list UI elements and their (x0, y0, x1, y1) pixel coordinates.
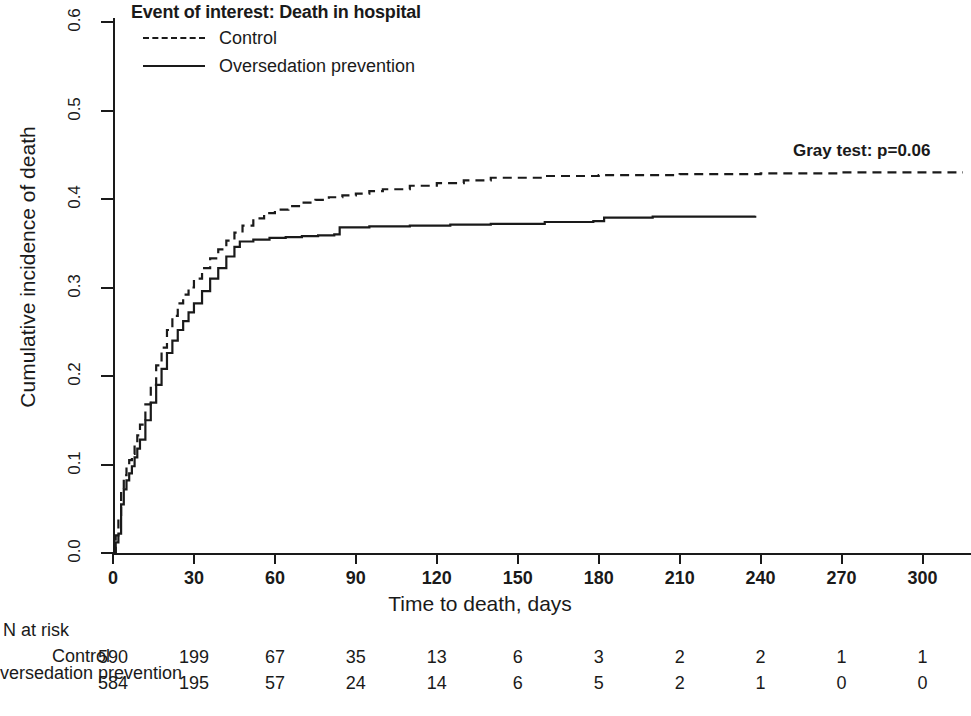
risk-cell: 195 (164, 673, 224, 694)
y-tick-label: 0.3 (65, 269, 85, 303)
x-tick-label: 240 (731, 568, 791, 589)
risk-cell: 199 (164, 647, 224, 668)
x-tick (922, 553, 924, 564)
x-tick-label: 30 (164, 568, 224, 589)
y-tick (101, 21, 113, 23)
solid-line-icon (143, 59, 205, 73)
x-tick (112, 553, 114, 564)
risk-cell: 0 (893, 673, 953, 694)
risk-cell: 590 (83, 647, 143, 668)
risk-cell: 13 (407, 647, 467, 668)
x-tick (760, 553, 762, 564)
x-tick (679, 553, 681, 564)
dashed-line-icon (143, 31, 205, 45)
x-tick-label: 210 (650, 568, 710, 589)
y-tick-label: 0.0 (65, 534, 85, 568)
x-tick-label: 270 (812, 568, 872, 589)
x-tick (274, 553, 276, 564)
risk-cell: 6 (488, 647, 548, 668)
curve-control (113, 172, 963, 553)
legend: Event of interest: Death in hospital Con… (131, 2, 421, 79)
risk-cell: 5 (569, 673, 629, 694)
x-tick-label: 60 (245, 568, 305, 589)
x-tick (517, 553, 519, 564)
x-tick (841, 553, 843, 564)
x-tick-label: 300 (893, 568, 953, 589)
y-tick-label: 0.5 (65, 92, 85, 126)
x-tick-label: 150 (488, 568, 548, 589)
risk-cell: 14 (407, 673, 467, 694)
x-tick (193, 553, 195, 564)
x-tick (355, 553, 357, 564)
x-axis-label: Time to death, days (315, 592, 645, 616)
x-tick-label: 180 (569, 568, 629, 589)
risk-cell: 1 (731, 673, 791, 694)
y-axis-label: Cumulative incidence of death (16, 102, 40, 432)
cumulative-incidence-figure: 0.00.10.20.30.40.50.6 030609012015018021… (0, 0, 971, 716)
risk-cell: 2 (650, 673, 710, 694)
risk-cell: 57 (245, 673, 305, 694)
risk-cell: 584 (83, 673, 143, 694)
x-tick (598, 553, 600, 564)
legend-label-oversedation-prevention: Oversedation prevention (219, 56, 415, 77)
legend-item-control: Control (131, 25, 421, 51)
x-tick-label: 0 (83, 568, 143, 589)
risk-cell: 35 (326, 647, 386, 668)
n-at-risk-title: N at risk (3, 620, 69, 641)
y-tick (101, 110, 113, 112)
y-tick-label: 0.6 (65, 3, 85, 37)
y-tick (101, 198, 113, 200)
y-tick (101, 464, 113, 466)
y-tick (101, 287, 113, 289)
y-tick (101, 375, 113, 377)
x-tick-label: 120 (407, 568, 467, 589)
x-tick (436, 553, 438, 564)
y-tick-label: 0.1 (65, 446, 85, 480)
y-tick-label: 0.2 (65, 357, 85, 391)
risk-cell: 1 (812, 647, 872, 668)
risk-cell: 2 (650, 647, 710, 668)
legend-item-oversedation-prevention: Oversedation prevention (131, 53, 421, 79)
x-tick-label: 90 (326, 568, 386, 589)
risk-cell: 67 (245, 647, 305, 668)
risk-cell: 24 (326, 673, 386, 694)
legend-label-control: Control (219, 28, 277, 49)
risk-cell: 3 (569, 647, 629, 668)
n-at-risk-table: N at risk Control Oversedation preventio… (0, 620, 971, 716)
risk-cell: 6 (488, 673, 548, 694)
y-tick-label: 0.4 (65, 180, 85, 214)
risk-cell: 0 (812, 673, 872, 694)
gray-test-annotation: Gray test: p=0.06 (793, 141, 931, 161)
risk-cell: 2 (731, 647, 791, 668)
incidence-curves (113, 18, 971, 553)
plot-area (113, 18, 971, 553)
legend-title: Event of interest: Death in hospital (131, 2, 421, 23)
risk-cell: 1 (893, 647, 953, 668)
